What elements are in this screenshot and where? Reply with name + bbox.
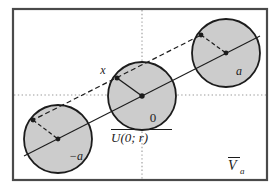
closed-ball-text: U(0; r) [111,130,148,145]
dot-center-a [224,51,229,56]
dot-offset-a [199,33,204,38]
label-point-a: a [236,64,242,78]
dot-center-zero [139,93,144,98]
region-subscript: a [240,166,245,176]
label-point-x: x [99,63,106,77]
dot-offset-x [115,76,120,81]
label-point-zero: 0 [150,110,157,125]
dot-center-minus-a [56,137,61,142]
region-symbol: V [228,158,238,173]
math-diagram: x 0 a −a U(0; r) V a [0,0,278,191]
label-point-minus-a: −a [69,149,83,163]
dot-offset-minus-a [31,118,36,123]
figure-root: x 0 a −a U(0; r) V a [0,0,278,191]
